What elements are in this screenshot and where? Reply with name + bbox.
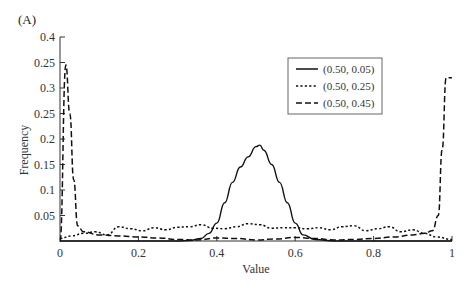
x-tick-label: 0.2: [131, 246, 146, 260]
series-line-dashed: [60, 65, 452, 241]
plot-area: [60, 65, 452, 241]
legend-entry: (0.50, 0.25): [323, 80, 375, 93]
x-axis-label: Value: [242, 262, 269, 276]
legend-entry: (0.50, 0.05): [323, 63, 375, 76]
y-tick-label: 0.25: [34, 56, 55, 70]
y-tick-label: 0.3: [40, 81, 55, 95]
x-tick-label: 1: [449, 246, 455, 260]
y-tick-label: 0.25: [34, 107, 55, 121]
legend-entry: (0.50, 0.45): [323, 97, 375, 110]
y-tick-label: 0.15: [34, 158, 55, 172]
legend: (0.50, 0.05)(0.50, 0.25)(0.50, 0.45): [288, 58, 382, 114]
x-tick-label: 0.8: [366, 246, 381, 260]
y-tick-label: 0.05: [34, 209, 55, 223]
y-tick-label: 0.1: [40, 183, 55, 197]
y-axis-label: Frequency: [17, 125, 31, 176]
x-tick-label: 0: [57, 246, 63, 260]
y-tick-label: 0.2: [40, 132, 55, 146]
line-chart: 0.050.10.150.20.250.30.250.400.20.40.60.…: [0, 0, 472, 288]
x-tick-label: 0.4: [209, 246, 224, 260]
y-tick-label: 0.4: [40, 30, 55, 44]
x-tick-label: 0.6: [288, 246, 303, 260]
